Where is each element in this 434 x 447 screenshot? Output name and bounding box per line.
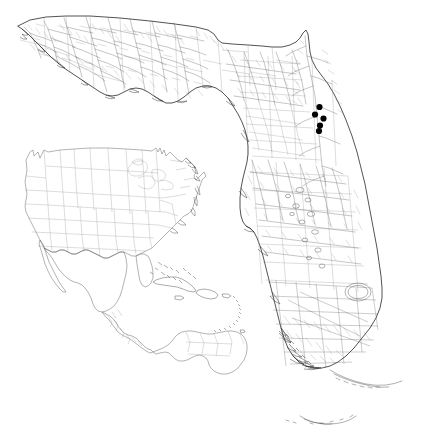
occurrence-point[interactable] (316, 104, 322, 110)
occurrence-point[interactable] (316, 128, 322, 134)
occurrence-point[interactable] (320, 115, 326, 121)
occurrence-point[interactable] (317, 122, 323, 128)
distribution-map-figure: Florida North America 5 east-central Flo… (0, 0, 434, 447)
occurrence-point[interactable] (312, 111, 318, 117)
map-canvas (0, 0, 434, 447)
